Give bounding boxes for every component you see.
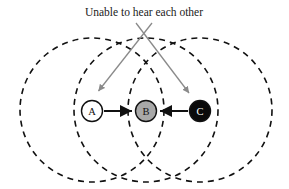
pointer-arrow-to-node-c [136, 23, 189, 93]
node-b[interactable]: B [136, 101, 157, 122]
node-group: A B C [82, 101, 211, 122]
node-c[interactable]: C [190, 101, 211, 122]
annotation-caption: Unable to hear each other [85, 6, 203, 18]
node-a[interactable]: A [82, 101, 103, 122]
node-c-label: C [196, 106, 203, 117]
hidden-terminal-diagram: A B C Unable to hear each other [0, 0, 289, 189]
diagram-canvas: A B C Unable to hear each other [0, 0, 289, 189]
pointer-group [99, 23, 190, 93]
node-b-label: B [142, 106, 149, 117]
node-a-label: A [88, 106, 96, 117]
